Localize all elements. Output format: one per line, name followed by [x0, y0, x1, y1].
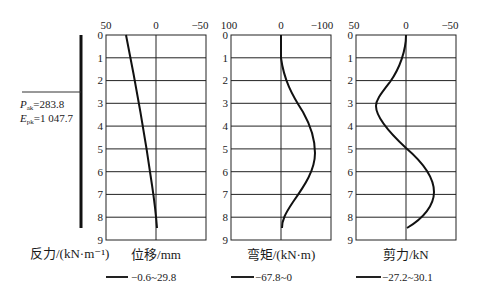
displacement-curve [126, 35, 157, 228]
panel-shear: 50 0 −50 01 23 45 67 89 剪力/kN −27.2~30.1 [348, 19, 460, 283]
svg-text:7: 7 [98, 188, 104, 200]
svg-text:7: 7 [348, 188, 354, 200]
svg-text:−100: −100 [311, 19, 334, 31]
svg-text:8: 8 [348, 211, 354, 223]
svg-text:0: 0 [98, 29, 104, 41]
svg-text:4: 4 [348, 120, 354, 132]
svg-text:5: 5 [348, 143, 354, 155]
svg-text:3: 3 [223, 97, 229, 109]
svg-text:8: 8 [223, 211, 229, 223]
svg-text:3: 3 [98, 97, 104, 109]
svg-text:1: 1 [348, 52, 354, 64]
svg-text:9: 9 [348, 234, 354, 246]
svg-text:5: 5 [98, 143, 104, 155]
svg-text:2: 2 [348, 74, 354, 86]
displacement-range: −0.6~29.8 [131, 271, 177, 283]
svg-text:1: 1 [223, 52, 229, 64]
moment-curve [281, 35, 315, 228]
svg-text:0: 0 [403, 19, 409, 31]
svg-text:2: 2 [98, 74, 104, 86]
panel-moment: 100 0 −100 01 23 45 67 89 弯矩/(kN·m) −67.… [221, 19, 334, 283]
p-annotation: Pak=283.8 [19, 98, 65, 112]
svg-text:0: 0 [223, 29, 229, 41]
shear-axis-label: 剪力/kN [383, 247, 429, 262]
svg-text:8: 8 [98, 211, 104, 223]
shear-range: −27.2~30.1 [382, 271, 433, 283]
panel-displacement: 50 0 −50 01 23 45 67 89 位移/mm −0.6~29.8 [98, 19, 210, 283]
svg-text:5: 5 [223, 143, 229, 155]
shear-curve [376, 35, 434, 228]
svg-text:4: 4 [98, 120, 104, 132]
chart-figure: Pak=283.8 Epk=1 047.7 反力/(kN·m⁻¹) 50 0 −… [0, 0, 479, 296]
svg-text:7: 7 [223, 188, 229, 200]
svg-text:2: 2 [223, 74, 229, 86]
reaction-axis-label: 反力/(kN·m⁻¹) [30, 246, 109, 261]
svg-text:9: 9 [98, 234, 104, 246]
e-annotation: Epk=1 047.7 [19, 112, 73, 126]
displacement-axis-label: 位移/mm [131, 247, 181, 262]
svg-text:−50: −50 [441, 19, 459, 31]
svg-text:4: 4 [223, 120, 229, 132]
moment-axis-label: 弯矩/(kN·m) [247, 247, 316, 262]
x-tick: 0 [153, 19, 159, 31]
svg-text:9: 9 [223, 234, 229, 246]
svg-text:1: 1 [98, 52, 104, 64]
moment-range: −67.8~0 [255, 271, 292, 283]
svg-text:6: 6 [223, 166, 229, 178]
svg-text:6: 6 [348, 166, 354, 178]
svg-text:6: 6 [98, 166, 104, 178]
svg-text:0: 0 [278, 19, 284, 31]
svg-text:0: 0 [348, 29, 354, 41]
x-tick: −50 [191, 19, 209, 31]
svg-text:3: 3 [348, 97, 354, 109]
